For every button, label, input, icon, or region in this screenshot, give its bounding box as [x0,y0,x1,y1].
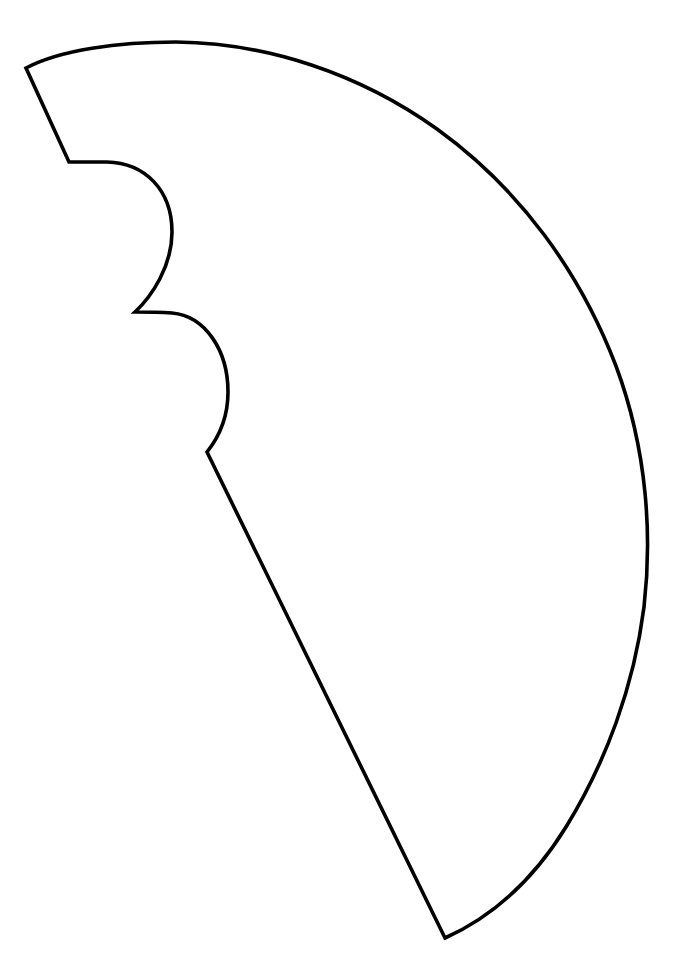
canvas-background [0,0,678,964]
drawing-canvas [0,0,678,964]
shape-outline-svg [0,0,678,964]
